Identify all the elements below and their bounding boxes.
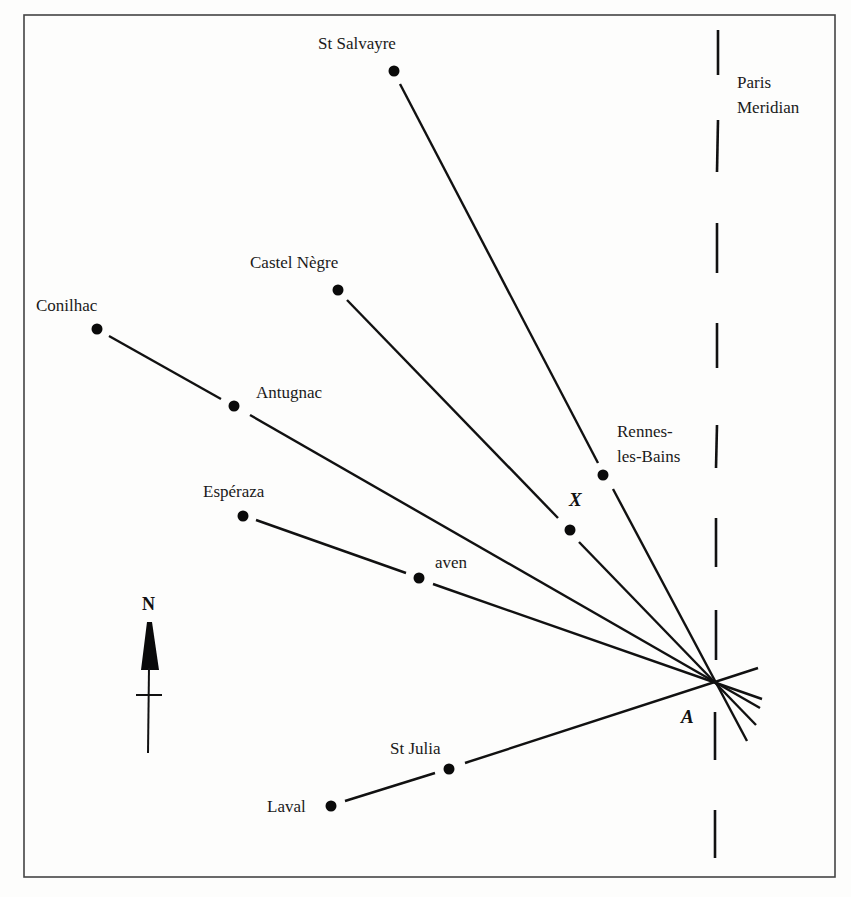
dot-castel-negre xyxy=(333,285,344,296)
alignment-lines xyxy=(109,84,762,801)
meridian-label-line2: Meridian xyxy=(737,98,800,117)
label-st-julia: St Julia xyxy=(390,739,441,758)
label-antugnac: Antugnac xyxy=(256,383,323,402)
paris-meridian xyxy=(715,30,718,858)
label-x: X xyxy=(568,489,583,510)
label-esperaza: Espéraza xyxy=(203,482,265,501)
label-conilhac: Conilhac xyxy=(36,296,98,315)
label-laval: Laval xyxy=(267,797,306,816)
north-arrow-icon: N xyxy=(136,594,162,753)
label-st-salvayre: St Salvayre xyxy=(318,34,396,53)
label-aven: aven xyxy=(435,553,468,572)
line-castel-negre-x xyxy=(347,300,558,518)
dot-antugnac xyxy=(229,401,240,412)
dot-st-julia xyxy=(444,764,455,775)
line-esperaza-aven xyxy=(256,520,406,573)
dot-rennes-les-bains xyxy=(598,470,609,481)
label-castel-negre: Castel Nègre xyxy=(250,253,338,272)
dot-esperaza xyxy=(238,511,249,522)
label-rennes-line1: Rennes- xyxy=(617,422,673,441)
line-rennes-a xyxy=(613,489,747,741)
label-rennes-line2: les-Bains xyxy=(617,447,680,466)
dot-aven xyxy=(414,573,425,584)
line-conilhac-antugnac xyxy=(109,336,221,399)
label-a: A xyxy=(680,706,694,727)
meridian-label-line1: Paris xyxy=(737,73,771,92)
dot-laval xyxy=(326,801,337,812)
line-laval-st-julia xyxy=(345,773,435,801)
line-antugnac-a xyxy=(250,415,760,708)
dot-st-salvayre xyxy=(389,66,400,77)
north-label: N xyxy=(142,594,155,614)
place-dots xyxy=(92,66,609,812)
map-diagram: Paris Meridian St Salvayre Castel Nègre xyxy=(0,0,851,897)
line-st-salvayre-rennes xyxy=(400,84,598,463)
dot-conilhac xyxy=(92,324,103,335)
dot-x xyxy=(565,525,576,536)
